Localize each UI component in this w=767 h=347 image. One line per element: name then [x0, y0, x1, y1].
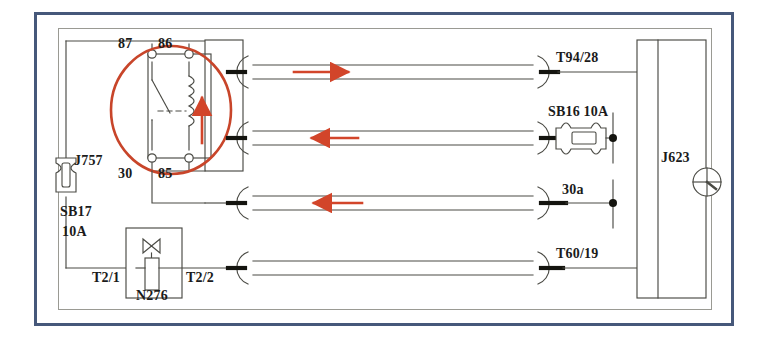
- valve-n276-name-label: N276: [136, 288, 168, 304]
- diagram-schematic-layer: [0, 0, 767, 347]
- right-connector-row-2: [538, 122, 556, 154]
- connector-30a-label: 30a: [562, 182, 584, 198]
- wire-run-row-4: [253, 261, 533, 275]
- fuse-sb17-name-label: SB17: [60, 204, 92, 220]
- valve-pin-t2-2-label: T2/2: [186, 270, 214, 286]
- valve-n276-symbol: [143, 239, 160, 290]
- module-j623-label: J623: [661, 150, 690, 166]
- module-j623-box: [637, 40, 706, 298]
- connector-t60-19-label: T60/19: [556, 246, 598, 262]
- wire-run-row-3: [253, 196, 533, 210]
- relay-coil: [189, 62, 194, 150]
- connector-t94-28-label: T94/28: [556, 50, 598, 66]
- relay-terminal-leads: [152, 44, 205, 171]
- wiring-diagram-page: 87 86 30 85 J757 SB17 10A SB16 10A N276 …: [0, 0, 767, 347]
- fuse-sb17-symbol: [56, 158, 76, 192]
- valve-pin-t2-1-label: T2/1: [92, 270, 120, 286]
- left-connector-row-4: [228, 252, 248, 284]
- relay-terminal-85-label: 85: [158, 166, 172, 182]
- fuse-sb16-symbol: [556, 123, 606, 154]
- left-connector-row-3: [228, 187, 248, 219]
- relay-terminal-86-label: 86: [158, 36, 172, 52]
- wire-run-row-2: [253, 131, 533, 145]
- relay-terminal-nodes: [148, 50, 193, 162]
- relay-name-label: J757: [74, 153, 103, 169]
- relay-terminal-87-label: 87: [118, 36, 132, 52]
- module-j623-engine-icon: [693, 168, 721, 196]
- right-bus-wire-row-2: [606, 113, 617, 163]
- fuse-sb16-label: SB16 10A: [548, 104, 608, 120]
- fuse-sb17-rating-label: 10A: [62, 224, 87, 240]
- relay-terminal-30-label: 30: [118, 166, 132, 182]
- relay-switch-contact: [152, 62, 170, 150]
- right-connector-row-1: [538, 56, 558, 88]
